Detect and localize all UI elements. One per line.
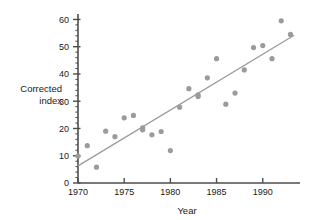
data-point xyxy=(94,165,99,170)
x-tick-label: 1970 xyxy=(68,187,88,197)
regression-line xyxy=(78,35,294,166)
data-point xyxy=(186,86,191,91)
data-point xyxy=(168,148,173,153)
data-point xyxy=(195,94,200,99)
data-point xyxy=(149,132,154,137)
data-point xyxy=(75,153,80,158)
data-point xyxy=(140,127,145,132)
data-point xyxy=(159,129,164,134)
data-point xyxy=(260,43,265,48)
y-tick-label: 10 xyxy=(59,151,69,161)
y-tick-label: 40 xyxy=(59,69,69,79)
y-axis-title-line: Corrected xyxy=(20,83,62,94)
data-point xyxy=(242,67,247,72)
data-point xyxy=(131,113,136,118)
x-tick-label: 1980 xyxy=(160,187,180,197)
x-axis: 19701975198019851990 xyxy=(68,178,300,197)
x-tick-label: 1985 xyxy=(207,187,227,197)
data-point xyxy=(251,45,256,50)
y-tick-label: 60 xyxy=(59,15,69,25)
y-tick-label: 20 xyxy=(59,124,69,134)
trendline-segment xyxy=(78,35,294,166)
chart-canvas: 0102030405060 19701975198019851990 YearC… xyxy=(0,0,313,220)
x-tick-label: 1990 xyxy=(253,187,273,197)
scatter-chart: 0102030405060 19701975198019851990 YearC… xyxy=(0,0,313,220)
data-point xyxy=(85,143,90,148)
data-point xyxy=(223,102,228,107)
data-point xyxy=(122,115,127,120)
data-point xyxy=(288,32,293,37)
y-axis: 0102030405060 xyxy=(59,14,81,188)
data-point xyxy=(103,129,108,134)
data-point xyxy=(269,56,274,61)
data-point xyxy=(279,18,284,23)
data-point xyxy=(214,56,219,61)
data-point xyxy=(205,75,210,80)
data-point xyxy=(232,90,237,95)
x-axis-title: Year xyxy=(177,205,196,216)
y-tick-label: 50 xyxy=(59,42,69,52)
data-point xyxy=(177,105,182,110)
data-point xyxy=(112,134,117,139)
y-axis-title-line: index xyxy=(39,95,62,106)
x-tick-label: 1975 xyxy=(114,187,134,197)
